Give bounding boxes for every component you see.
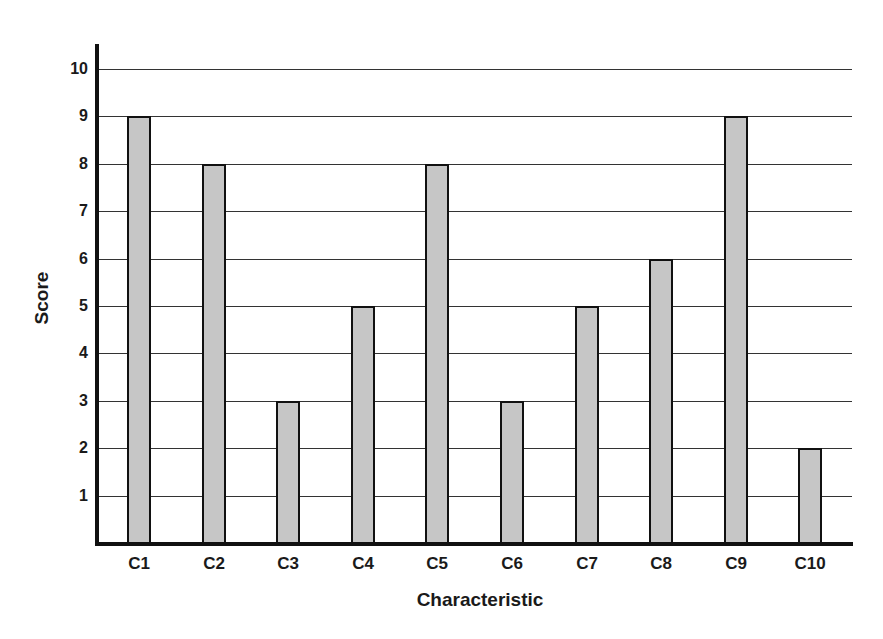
x-tick-label: C6 bbox=[482, 555, 542, 572]
bar-c1 bbox=[127, 116, 151, 544]
bar-c3 bbox=[276, 401, 300, 544]
y-axis-label: Score bbox=[31, 272, 53, 325]
bar-c6 bbox=[500, 401, 524, 544]
y-tick-label: 1 bbox=[48, 488, 88, 504]
x-axis-label: Characteristic bbox=[300, 589, 660, 611]
bar-c8 bbox=[649, 259, 673, 544]
bar-c2 bbox=[202, 164, 226, 544]
x-tick-label: C5 bbox=[407, 555, 467, 572]
y-tick-label: 2 bbox=[48, 440, 88, 456]
x-tick-label: C10 bbox=[780, 555, 840, 572]
y-tick-label: 5 bbox=[48, 298, 88, 314]
y-tick-label: 9 bbox=[48, 108, 88, 124]
bar-c10 bbox=[798, 448, 822, 544]
y-tick-label: 4 bbox=[48, 345, 88, 361]
bar-c7 bbox=[575, 306, 599, 544]
x-tick-label: C2 bbox=[184, 555, 244, 572]
x-tick-label: C8 bbox=[631, 555, 691, 572]
y-tick-label: 7 bbox=[48, 203, 88, 219]
y-tick-label: 10 bbox=[48, 61, 88, 77]
x-tick-label: C3 bbox=[258, 555, 318, 572]
y-tick-label: 3 bbox=[48, 393, 88, 409]
bar-chart: 12345678910 C1C2C3C4C5C6C7C8C9C10 Score … bbox=[0, 0, 883, 639]
x-axis-line bbox=[95, 542, 853, 546]
gridline bbox=[98, 69, 852, 70]
x-tick-label: C7 bbox=[557, 555, 617, 572]
y-tick-label: 6 bbox=[48, 251, 88, 267]
bar-c5 bbox=[425, 164, 449, 544]
x-tick-label: C1 bbox=[109, 555, 169, 572]
x-tick-label: C9 bbox=[706, 555, 766, 572]
x-tick-label: C4 bbox=[333, 555, 393, 572]
y-axis-line bbox=[95, 44, 99, 546]
bar-c9 bbox=[724, 116, 748, 544]
y-tick-label: 8 bbox=[48, 156, 88, 172]
bar-c4 bbox=[351, 306, 375, 544]
